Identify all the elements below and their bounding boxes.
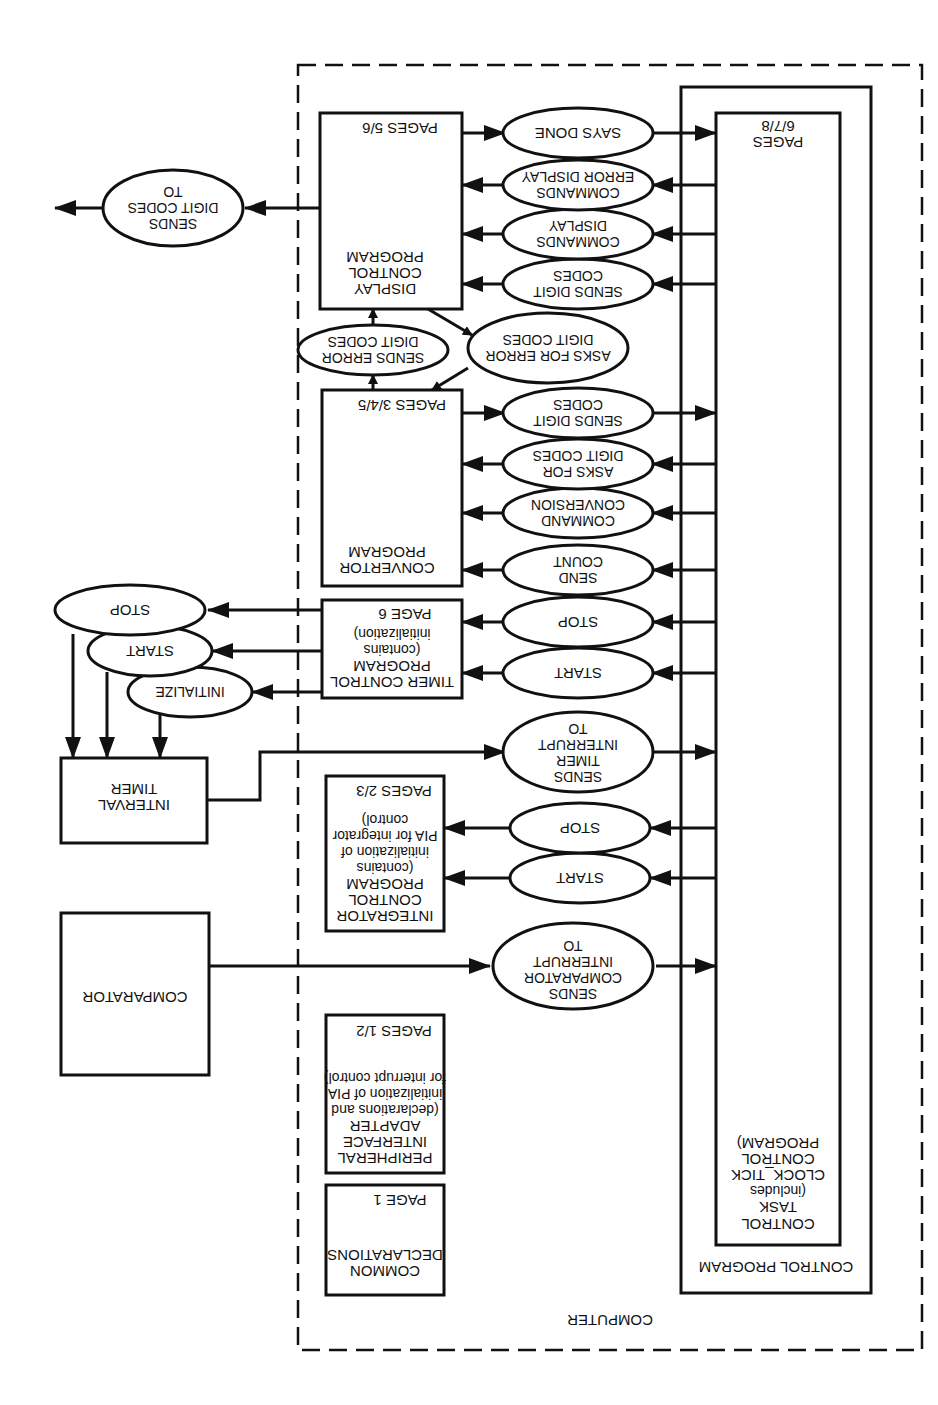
- svg-text:COUNT: COUNT: [553, 554, 603, 570]
- msg-commands-error-display: COMMANDS ERROR DISPLAY: [503, 160, 653, 210]
- msg-integrator-start: START: [510, 853, 650, 903]
- svg-text:CONTROL: CONTROL: [348, 265, 421, 282]
- svg-text:TIMER: TIMER: [556, 753, 600, 769]
- svg-text:TIMER: TIMER: [111, 781, 158, 798]
- svg-text:STOP: STOP: [560, 820, 601, 837]
- svg-text:initialization of PIA: initialization of PIA: [327, 1086, 442, 1102]
- svg-text:SENDS: SENDS: [549, 986, 597, 1002]
- svg-text:TASK: TASK: [759, 1199, 797, 1216]
- diagram-svg: COMPUTER CONTROL PROGRAM CONTROL TASK (i…: [0, 0, 938, 1405]
- svg-text:TO: TO: [163, 184, 182, 200]
- svg-text:(declarations and: (declarations and: [331, 1102, 438, 1118]
- msg-sends-timer-interrupt: SENDS TIMER INTERRUPT TO: [503, 712, 653, 792]
- svg-text:COMMANDS: COMMANDS: [536, 234, 619, 250]
- svg-text:START: START: [126, 643, 174, 660]
- svg-text:INTERFACE: INTERFACE: [343, 1134, 427, 1151]
- svg-text:SENDS ERROR: SENDS ERROR: [322, 350, 425, 366]
- msg-timer-start: START: [503, 648, 653, 698]
- svg-text:control): control): [362, 812, 409, 828]
- msg-sends-digit-codes-convertor: SENDS DIGIT CODES: [503, 388, 653, 438]
- msg-integrator-stop: STOP: [510, 803, 650, 853]
- svg-text:PAGE 6: PAGE 6: [378, 606, 431, 623]
- svg-text:START: START: [554, 665, 602, 682]
- svg-text:PROGRAM: PROGRAM: [346, 249, 424, 266]
- svg-text:initialization): initialization): [353, 626, 430, 642]
- svg-text:for interrupt control): for interrupt control): [324, 1070, 446, 1086]
- svg-text:SENDS: SENDS: [149, 216, 197, 232]
- msg-commands-display: COMMANDS DISPLAY: [503, 209, 653, 259]
- msg-sends-comparator-interrupt: SENDS COMPARATOR INTERRUPT TO: [493, 923, 653, 1009]
- svg-text:ASKS FOR: ASKS FOR: [543, 464, 614, 480]
- hw-stop: STOP: [55, 585, 205, 635]
- control-program-label: CONTROL PROGRAM: [699, 1259, 853, 1276]
- svg-text:ASKS FOR ERROR: ASKS FOR ERROR: [485, 348, 610, 364]
- svg-text:PAGES: PAGES: [753, 134, 804, 151]
- svg-text:PROGRAM: PROGRAM: [348, 544, 426, 561]
- control-task-box: [716, 113, 840, 1245]
- svg-text:CODES: CODES: [553, 268, 603, 284]
- svg-text:DIGIT CODES: DIGIT CODES: [503, 332, 594, 348]
- msg-timer-stop: STOP: [503, 597, 653, 647]
- svg-text:CONTROL: CONTROL: [741, 1151, 814, 1168]
- svg-text:PAGES 1/2: PAGES 1/2: [356, 1023, 432, 1040]
- svg-text:INTEGRATOR: INTEGRATOR: [336, 908, 433, 925]
- svg-text:PROGRAM: PROGRAM: [346, 876, 424, 893]
- svg-text:ADAPTER: ADAPTER: [349, 1118, 420, 1135]
- svg-text:SENDS DIGIT: SENDS DIGIT: [533, 284, 623, 300]
- svg-text:COMPARATOR: COMPARATOR: [524, 970, 622, 986]
- svg-text:SENDS DIGIT: SENDS DIGIT: [533, 413, 623, 429]
- svg-text:CONVERSION: CONVERSION: [531, 497, 625, 513]
- msg-asks-for-error-digit-codes: ASKS FOR ERROR DIGIT CODES: [468, 313, 628, 383]
- svg-text:CONVERTOR: CONVERTOR: [339, 560, 434, 577]
- svg-text:(contains: (contains: [357, 860, 414, 876]
- svg-text:STOP: STOP: [110, 602, 151, 619]
- svg-text:DIGIT CODES: DIGIT CODES: [533, 448, 624, 464]
- svg-text:PROGRAM: PROGRAM: [353, 658, 431, 675]
- svg-text:TIMER CONTROL: TIMER CONTROL: [330, 674, 454, 691]
- comparator-label: COMPARATOR: [82, 989, 187, 1006]
- svg-text:INTERRUPT: INTERRUPT: [533, 954, 614, 970]
- svg-text:CONTROL: CONTROL: [741, 1216, 814, 1233]
- svg-text:DISPLAY: DISPLAY: [548, 218, 607, 234]
- computer-label: COMPUTER: [567, 1312, 653, 1329]
- svg-text:INITIALIZE: INITIALIZE: [155, 684, 224, 700]
- svg-text:(includes: (includes: [750, 1183, 806, 1199]
- svg-text:PAGES 5/6: PAGES 5/6: [362, 120, 438, 137]
- msg-send-count: SEND COUNT: [503, 545, 653, 595]
- svg-text:STOP: STOP: [558, 614, 599, 631]
- msg-sends-error-digit-codes: SENDS ERROR DIGIT CODES: [298, 325, 448, 375]
- svg-text:(contains: (contains: [364, 642, 421, 658]
- svg-text:PIA for integrator: PIA for integrator: [332, 828, 437, 844]
- svg-text:DIGIT CODES: DIGIT CODES: [328, 334, 419, 350]
- svg-text:COMMANDS: COMMANDS: [536, 185, 619, 201]
- svg-text:ERROR DISPLAY: ERROR DISPLAY: [521, 169, 634, 185]
- svg-text:SENDS: SENDS: [554, 769, 602, 785]
- svg-text:PROGRAM): PROGRAM): [737, 1135, 820, 1152]
- svg-text:CONTROL: CONTROL: [348, 892, 421, 909]
- svg-text:6/7/8: 6/7/8: [761, 118, 794, 135]
- svg-text:DECLARATIONS: DECLARATIONS: [327, 1247, 443, 1264]
- svg-text:PERIPHERAL: PERIPHERAL: [337, 1150, 432, 1167]
- svg-text:initialization of: initialization of: [341, 844, 429, 860]
- svg-text:TO: TO: [563, 938, 582, 954]
- svg-text:COMMON: COMMON: [350, 1263, 420, 1280]
- svg-text:TO: TO: [568, 721, 587, 737]
- svg-text:CLOCK_TICK: CLOCK_TICK: [731, 1167, 825, 1184]
- svg-text:COMMAND: COMMAND: [541, 513, 615, 529]
- software-structure-diagram: COMPUTER CONTROL PROGRAM CONTROL TASK (i…: [0, 0, 938, 1405]
- msg-command-conversion: COMMAND CONVERSION: [503, 488, 653, 538]
- svg-text:SEND: SEND: [559, 570, 598, 586]
- svg-text:DISPLAY: DISPLAY: [354, 281, 416, 298]
- msg-says-done: SAYS DONE: [503, 108, 653, 158]
- svg-text:PAGES 3/4/5: PAGES 3/4/5: [358, 397, 446, 414]
- svg-text:SAYS DONE: SAYS DONE: [535, 125, 621, 142]
- svg-text:START: START: [556, 870, 604, 887]
- msg-sends-digit-codes-to: SENDS DIGIT CODES TO: [103, 170, 243, 246]
- svg-text:INTERRUPT: INTERRUPT: [538, 737, 619, 753]
- svg-text:PAGE 1: PAGE 1: [373, 1192, 426, 1209]
- msg-sends-digit-codes-display: SENDS DIGIT CODES: [503, 259, 653, 309]
- msg-asks-for-digit-codes: ASKS FOR DIGIT CODES: [503, 439, 653, 489]
- svg-text:DIGIT CODES: DIGIT CODES: [128, 200, 219, 216]
- svg-text:CODES: CODES: [553, 397, 603, 413]
- svg-text:PAGES 2/3: PAGES 2/3: [356, 783, 432, 800]
